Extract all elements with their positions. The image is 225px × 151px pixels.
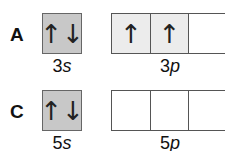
orbital-3s-label: 3s xyxy=(42,57,82,75)
orbital-3p-box-2: ↑ xyxy=(150,13,190,54)
orbital-5p-box-3 xyxy=(188,90,225,131)
orbital-3s-box: ↑↓ xyxy=(42,13,82,54)
orbital-5s-label: 5s xyxy=(42,134,82,151)
orbital-5p-box-2 xyxy=(150,90,190,131)
orbital-5p-label: 5p xyxy=(149,134,191,151)
orbital-5s-box: ↑↓ xyxy=(42,90,82,131)
row-label-a: A xyxy=(10,25,24,44)
orbital-3p-label: 3p xyxy=(149,57,191,75)
orbital-3p-box-3 xyxy=(188,13,225,54)
orbital-5p-box-1 xyxy=(111,90,151,131)
row-label-c: C xyxy=(10,102,24,121)
orbital-3p-box-1: ↑ xyxy=(111,13,151,54)
